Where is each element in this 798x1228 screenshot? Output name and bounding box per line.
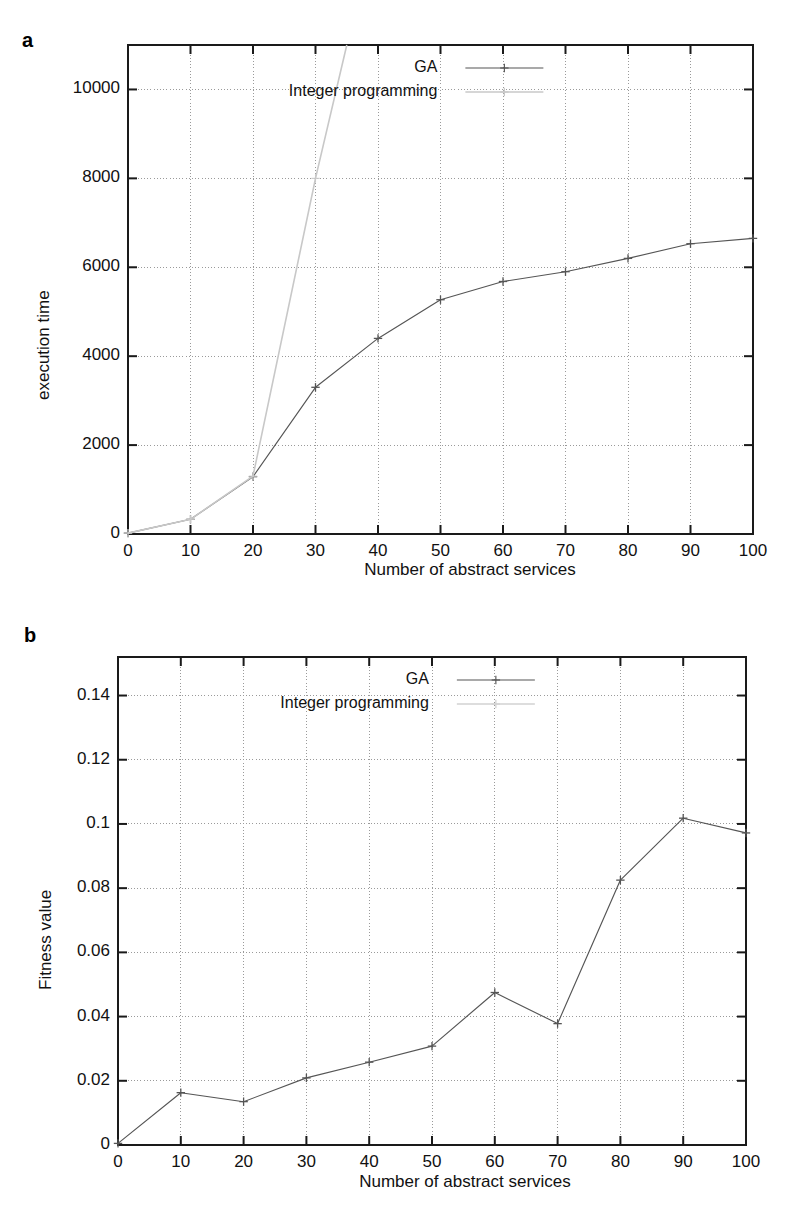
panel-a-xtick-label: 60 [473,541,533,561]
panel-a-xtick-label: 100 [723,541,783,561]
panel-a-ytick-label: 10000 [20,78,120,98]
panel-b-ytick-label: 0.12 [10,749,110,769]
panel-b-xtick-label: 10 [151,1152,211,1172]
panel-b-legend-label: GA [169,670,429,688]
panel-a-ytick-label: 4000 [20,345,120,365]
panel-b-x-axis-label: Number of abstract services [255,1172,675,1192]
figure-two-panel-line-charts: a execution time Number of abstract serv… [0,0,798,1228]
panel-b-xtick-label: 80 [590,1152,650,1172]
panel-b-ytick-label: 0.02 [10,1070,110,1090]
panel-b-ytick-label: 0.08 [10,877,110,897]
panel-b-legend-label: Integer programming [169,694,429,712]
panel-b-y-axis-label: Fitness value [36,890,56,990]
panel-a-xtick-label: 10 [161,541,221,561]
panel-a-legend-label: GA [177,58,437,76]
panel-b-xtick-label: 50 [402,1152,462,1172]
panel-b-ytick-label: 0.1 [10,813,110,833]
panel-a-ytick-label: 8000 [20,167,120,187]
panel-a-ytick-label: 0 [20,523,120,543]
panel-b-xtick-label: 0 [88,1152,148,1172]
panel-b-xtick-label: 20 [214,1152,274,1172]
panel-b-xtick-label: 70 [528,1152,588,1172]
panel-a-xtick-label: 0 [98,541,158,561]
panel-b-xtick-label: 60 [465,1152,525,1172]
panel-a-xtick-label: 80 [598,541,658,561]
panel-a-legend-label: Integer programming [177,82,437,100]
panel-b-ytick-label: 0.06 [10,941,110,961]
panel-b-xtick-label: 100 [716,1152,776,1172]
panel-a-xtick-label: 90 [661,541,721,561]
panel-b-xtick-label: 90 [653,1152,713,1172]
panel-a-xtick-label: 20 [223,541,283,561]
panel-a-xtick-label: 30 [286,541,346,561]
panel-b-ytick-label: 0.14 [10,685,110,705]
panel-a-ytick-label: 6000 [20,256,120,276]
panel-a-xtick-label: 70 [536,541,596,561]
panel-a-xtick-label: 40 [348,541,408,561]
panel-b-ytick-label: 0 [10,1134,110,1154]
panel-a-xtick-label: 50 [411,541,471,561]
panel-b-xtick-label: 30 [276,1152,336,1172]
panel-b-ytick-label: 0.04 [10,1006,110,1026]
panel-a-ytick-label: 2000 [20,434,120,454]
panel-b-xtick-label: 40 [339,1152,399,1172]
